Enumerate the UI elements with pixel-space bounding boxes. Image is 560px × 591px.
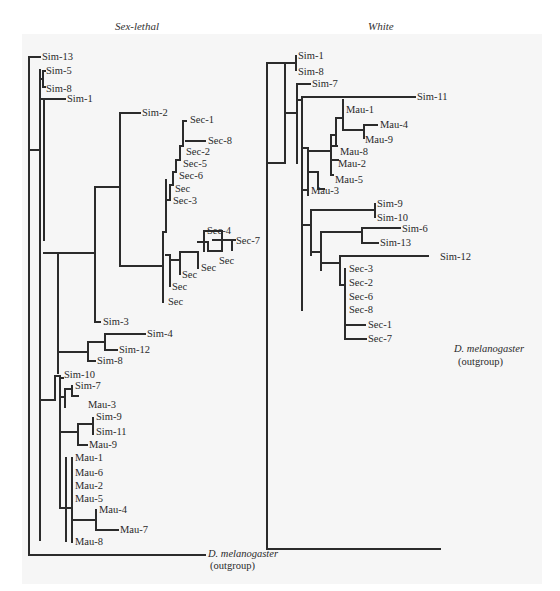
leaf-label: Sim-4 (147, 328, 173, 340)
leaf-label: Sim-8 (97, 355, 123, 367)
leaf-label: Sim-7 (75, 380, 101, 392)
outgroup-label: D. melanogaster (454, 343, 524, 355)
leaf-label: Sim-11 (96, 426, 127, 438)
leaf-label: Sim-5 (46, 65, 72, 77)
leaf-label: Sim-2 (142, 107, 168, 119)
leaf-label: Sim-6 (402, 223, 428, 235)
leaf-label: Mau-5 (335, 174, 363, 186)
leaf-label: Sec-4 (207, 225, 231, 237)
leaf-label: Sim-13 (380, 237, 411, 249)
leaf-label: Sim-9 (96, 411, 122, 423)
leaf-label: Sim-1 (67, 93, 93, 105)
leaf-label: Sec-7 (368, 333, 392, 345)
leaf-label: Sec (201, 262, 216, 274)
leaf-label: Mau-7 (120, 524, 148, 536)
leaf-label: Mau-4 (99, 504, 127, 516)
outgroup-label: D. melanogaster (208, 548, 278, 560)
leaf-label: Sec-6 (349, 291, 373, 303)
leaf-label: Sec (182, 269, 197, 281)
leaf-label: Mau-3 (88, 399, 116, 411)
leaf-label: Sim-7 (312, 78, 338, 90)
leaf-label: Sim-13 (42, 51, 73, 63)
leaf-label: Sec (172, 281, 187, 293)
leaf-label: Sim-11 (417, 91, 448, 103)
leaf-label: Sec-1 (368, 319, 392, 331)
leaf-label: Sim-8 (298, 66, 324, 78)
leaf-label: Sim-1 (298, 50, 324, 62)
leaf-label: Mau-8 (75, 536, 103, 548)
leaf-label: Mau-3 (311, 185, 339, 197)
leaf-label: Sec-7 (236, 235, 260, 247)
leaf-label: Sec-8 (208, 135, 232, 147)
leaf-label: Sec (175, 183, 190, 195)
leaf-label: Mau-9 (89, 439, 117, 451)
leaf-label: Mau-2 (75, 480, 103, 492)
leaf-label: Sim-12 (119, 344, 150, 356)
leaf-label: Sim-3 (103, 316, 129, 328)
outgroup-note: (outgroup) (210, 560, 255, 572)
leaf-label: Mau-1 (346, 104, 374, 116)
leaf-label: Sec-3 (349, 263, 373, 275)
leaf-label: Mau-9 (365, 134, 393, 146)
leaf-label: Sec-5 (183, 158, 207, 170)
leaf-label: Sec-2 (186, 146, 210, 158)
leaf-label: Sim-9 (377, 198, 403, 210)
leaf-label: Sec-8 (349, 304, 373, 316)
leaf-label: Sec-1 (190, 114, 214, 126)
leaf-label: Mau-6 (75, 467, 103, 479)
outgroup-note: (outgroup) (458, 356, 503, 368)
leaf-label: Mau-2 (338, 158, 366, 170)
leaf-label: Sec (219, 255, 234, 267)
leaf-label: Sec-6 (179, 170, 203, 182)
leaf-label: Sec-2 (349, 277, 373, 289)
leaf-label: Mau-1 (75, 452, 103, 464)
leaf-label: Sec-3 (173, 195, 197, 207)
leaf-label: Sec (168, 296, 183, 308)
leaf-label: Mau-8 (340, 146, 368, 158)
leaf-label: Sim-12 (440, 251, 471, 263)
leaf-label: Mau-4 (380, 119, 408, 131)
